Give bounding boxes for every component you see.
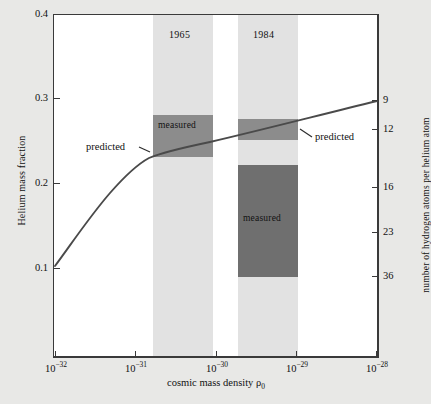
x-tick-0 — [55, 351, 56, 358]
x-tick-exponent-4: −28 — [376, 360, 388, 369]
x-tick-exponent-2: −30 — [216, 360, 228, 369]
x-tick-mantissa-3: 10 — [286, 363, 297, 374]
y-tick-label-3: 0.1 — [12, 262, 48, 273]
y2-tick-label-0: 9 — [383, 94, 388, 105]
y2-tick-label-2: 16 — [383, 181, 394, 192]
y-tick-2 — [53, 183, 60, 184]
x-tick-1 — [135, 351, 136, 358]
x-tick-exponent-3: −29 — [296, 360, 308, 369]
x-tick-label-1: 10−31 — [115, 360, 157, 374]
y2-tick-1 — [372, 129, 379, 130]
y2-tick-0 — [372, 100, 379, 101]
y2-tick-label-1: 12 — [383, 123, 394, 134]
predicted-right-label: predicted — [315, 131, 354, 142]
x-tick-label-2: 10−30 — [196, 360, 238, 374]
x-axis-title-sub: 0 — [261, 382, 265, 391]
x-tick-mantissa-2: 10 — [206, 363, 217, 374]
x-tick-mantissa-0: 10 — [45, 363, 56, 374]
x-tick-label-4: 10−28 — [356, 360, 398, 374]
x-tick-4 — [376, 351, 377, 358]
y-tick-0 — [53, 14, 60, 15]
predicted-left-leader — [139, 147, 150, 152]
y2-tick-label-4: 36 — [383, 270, 394, 281]
y-tick-1 — [53, 98, 60, 99]
y-axis-right-title: number of hydrogen atoms per helium atom — [421, 110, 431, 300]
predicted-curve — [55, 101, 377, 266]
predicted-left-label: predicted — [86, 141, 125, 152]
y-axis-title: Helium mass fraction — [16, 116, 27, 246]
y-tick-3 — [53, 268, 60, 269]
x-tick-mantissa-4: 10 — [366, 363, 377, 374]
y2-tick-3 — [372, 232, 379, 233]
x-tick-mantissa-1: 10 — [125, 363, 136, 374]
x-tick-exponent-1: −31 — [135, 360, 147, 369]
y2-tick-label-3: 23 — [383, 226, 394, 237]
y-tick-label-1: 0.3 — [12, 92, 48, 103]
x-tick-3 — [296, 351, 297, 358]
y2-tick-4 — [372, 276, 379, 277]
x-tick-2 — [216, 351, 217, 358]
x-axis-title-text: cosmic mass density — [167, 377, 256, 388]
y2-tick-2 — [372, 187, 379, 188]
predicted-right-leader — [300, 129, 312, 137]
x-tick-label-3: 10−29 — [276, 360, 318, 374]
y-tick-label-0: 0.4 — [12, 8, 48, 19]
x-axis-title: cosmic mass density ρ0 — [53, 377, 379, 391]
x-tick-label-0: 10−32 — [35, 360, 77, 374]
x-tick-exponent-0: −32 — [55, 360, 67, 369]
